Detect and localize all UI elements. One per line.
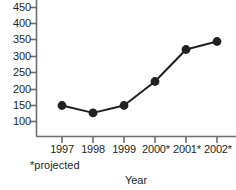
x-tick-label: 1999 [112,143,136,155]
data-point [182,45,191,54]
x-tick-label: 2002* [204,143,232,155]
data-point [58,101,67,110]
data-point-markers [58,37,222,117]
line-chart: 450 400 350 300 250 200 150 100 1997 199… [0,0,236,190]
data-line-series-1 [62,42,217,113]
data-point [151,77,160,86]
x-axis-tick-labels: 1997 1998 1999 2000* 2001* 2002* [0,143,236,159]
y-tick-label: 150 [3,100,31,111]
y-axis-tick-labels: 450 400 350 300 250 200 150 100 [0,0,31,140]
x-tick-label: 2000* [142,143,170,155]
y-tick-label: 200 [3,84,31,95]
y-tick-label: 350 [3,34,31,45]
data-point [89,109,98,118]
projected-footnote: *projected [30,159,80,171]
y-tick-label: 450 [3,2,31,13]
x-tick-label: 2001* [173,143,201,155]
data-point [120,101,129,110]
x-axis-title: Year [36,174,236,186]
x-tick-label: 1997 [50,143,74,155]
y-tick-label: 300 [3,51,31,62]
y-tick-label: 250 [3,67,31,78]
data-point [213,37,222,46]
x-tick-label: 1998 [81,143,105,155]
y-tick-label: 400 [3,18,31,29]
y-tick-label: 100 [3,116,31,127]
